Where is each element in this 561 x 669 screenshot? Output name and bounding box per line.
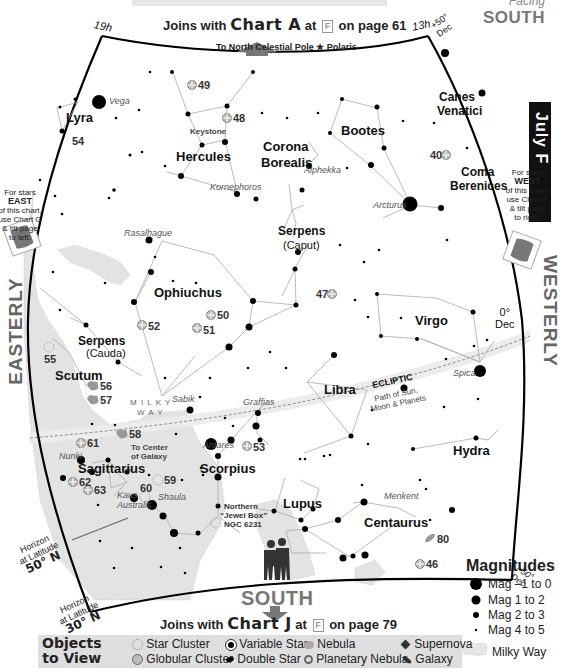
mag-item-4: Mag 4 to 5 [488, 623, 545, 637]
joins-top-at: at [305, 18, 317, 33]
object-48[interactable]: 48 [233, 112, 245, 124]
object-49[interactable]: 49 [198, 79, 210, 91]
constellation-lyra[interactable]: Lyra [66, 110, 93, 125]
milky-way-legend-label: Milky Way [492, 645, 546, 659]
chart-g-link[interactable]: use Chart G [0, 215, 46, 224]
object-57[interactable]: 57 [100, 394, 112, 406]
legend-title: Objects to View [42, 636, 102, 666]
star-label-australis[interactable]: Australis [117, 500, 152, 510]
double-star-icon [225, 656, 234, 663]
joins-bottom-prefix: Joins with [160, 617, 224, 632]
west-note-line: of this chart, [500, 186, 555, 195]
facing-value: SOUTH [483, 8, 545, 28]
object-52[interactable]: 52 [148, 320, 160, 332]
star-label-arcturus[interactable]: Arcturus [373, 200, 407, 210]
constellation-serpens-cauda[interactable]: Serpens [78, 334, 125, 348]
constellation-libra[interactable]: Libra [324, 382, 356, 397]
westerly-label: WESTERLY [539, 255, 561, 367]
star-label-vega[interactable]: Vega [109, 96, 130, 106]
dec-mid-label: 0° Dec [495, 306, 515, 330]
object-40[interactable]: 40 [430, 149, 442, 161]
west-tilt-icon [503, 231, 541, 269]
star-label-alphekka[interactable]: Alphekka [304, 165, 341, 175]
constellation-virgo[interactable]: Virgo [415, 313, 448, 328]
supernova-icon [401, 640, 411, 650]
object-54[interactable]: 54 [72, 135, 84, 147]
constellation-lupus[interactable]: Lupus [283, 496, 322, 511]
object-59[interactable]: 59 [164, 474, 176, 486]
chart-e-link[interactable]: use Chart E [500, 195, 555, 204]
chart-a-link[interactable]: Chart A [230, 15, 301, 34]
legend-star-cluster: Star Cluster [132, 637, 210, 651]
constellation-corona[interactable]: Corona [263, 139, 309, 154]
star-label-kaus[interactable]: Kaus [117, 490, 138, 500]
legend-label: Variable Star [239, 637, 307, 651]
center-galaxy-label-1: To Center [131, 443, 168, 452]
serpens-caput-sublabel: (Caput) [283, 239, 320, 251]
object-62[interactable]: 62 [79, 476, 91, 488]
legend-nebula: Nebula [304, 637, 355, 651]
star-cor-caroli [479, 90, 486, 97]
dec-mid-unit: Dec [495, 318, 515, 330]
milky-way-label-2: W A Y [137, 408, 164, 417]
object-63[interactable]: 63 [94, 484, 106, 496]
joins-top-prefix: Joins with [163, 18, 227, 33]
object-50[interactable]: 50 [217, 309, 229, 321]
facing-label: Facing [483, 0, 545, 8]
star-label-antares[interactable]: Antares [203, 440, 234, 450]
variable-star-icon [226, 640, 236, 650]
galaxy-icon [402, 655, 412, 664]
constellation-serpens-caput[interactable]: Serpens [278, 224, 325, 238]
constellation-centaurus[interactable]: Centaurus [364, 515, 428, 530]
planetary-nebula-icon [304, 655, 313, 664]
west-note-line: & tilt page [500, 204, 555, 213]
star-menkent [361, 499, 368, 506]
legend-label: Galaxy [415, 652, 452, 666]
star-label-graffias[interactable]: Graffias [243, 397, 275, 407]
legend-label: Globular Cluster [146, 652, 233, 666]
west-note-bold: WEST [515, 176, 541, 186]
object-53[interactable]: 53 [253, 441, 265, 453]
star-label-nunki[interactable]: Nunki [59, 451, 82, 461]
star-label-rasalhague[interactable]: Rasalhague [124, 228, 172, 238]
constellation-scutum[interactable]: Scutum [55, 368, 103, 383]
constellation-ophiuchus[interactable]: Ophiuchus [154, 285, 222, 300]
legend-galaxy: Galaxy [402, 652, 453, 666]
object-60[interactable]: 60 [140, 482, 152, 494]
jewel-box-label-3: NGC 6231 [224, 520, 262, 529]
object-56[interactable]: 56 [100, 380, 112, 392]
joins-top: Joins with Chart A at F on page 61 [163, 15, 406, 34]
joins-bottom-page: on page 79 [329, 617, 397, 632]
star-label-shaula[interactable]: Shaula [158, 492, 186, 502]
star-label-sabik[interactable]: Sabik [172, 394, 195, 404]
object-61[interactable]: 61 [87, 437, 99, 449]
chart-j-link[interactable]: Chart J [227, 614, 292, 633]
constellation-hydra[interactable]: Hydra [453, 443, 490, 458]
object-51[interactable]: 51 [203, 324, 215, 336]
facing-direction: Facing SOUTH [483, 0, 545, 28]
dec-mid-value: 0° [495, 306, 515, 318]
legend-title-1: Objects [42, 636, 102, 651]
object-80[interactable]: 80 [437, 533, 449, 545]
jewel-box-label-1: Northern [224, 502, 258, 511]
object-46[interactable]: 46 [426, 558, 438, 570]
object-58[interactable]: 58 [129, 428, 141, 440]
constellation-bootes[interactable]: Bootes [341, 123, 385, 138]
legend-label: Planetary Nebula [316, 652, 408, 666]
constellation-hercules[interactable]: Hercules [176, 149, 231, 164]
star-label-menkent[interactable]: Menkent [384, 491, 419, 501]
serpens-cauda-sublabel: (Cauda) [86, 347, 126, 359]
object-47[interactable]: 47 [316, 288, 328, 300]
constellation-scorpius[interactable]: Scorpius [200, 461, 256, 476]
mag-item-3: Mag 2 to 3 [488, 608, 545, 622]
constellation-berenices[interactable]: Berenices [450, 179, 507, 193]
constellation-canes[interactable]: Canes [439, 90, 475, 104]
object-55[interactable]: 55 [44, 353, 56, 365]
star-spica [474, 365, 486, 377]
star-label-kornephoros[interactable]: Kornephoros [210, 182, 262, 192]
star-label-spica[interactable]: Spica [453, 368, 476, 378]
constellation-sagittarius[interactable]: Sagittarius [78, 461, 145, 476]
constellation-coma[interactable]: Coma [461, 165, 494, 179]
constellation-venatici[interactable]: Venatici [437, 104, 482, 118]
star-vega [92, 95, 106, 109]
